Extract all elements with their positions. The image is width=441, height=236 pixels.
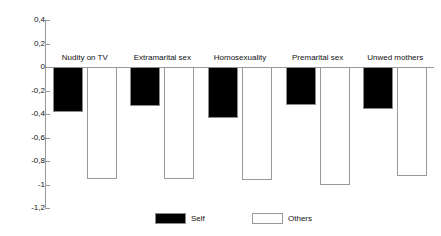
- category-label: Extramarital sex: [124, 53, 202, 62]
- bar-others: [87, 67, 117, 179]
- y-axis-tick-label: -1,2: [7, 204, 45, 212]
- bar-others: [242, 67, 272, 180]
- chart-legend: SelfOthers: [0, 213, 441, 229]
- y-axis-tick-label: -0,4: [7, 110, 45, 118]
- y-axis-tick-label: -0,8: [7, 157, 45, 165]
- legend-swatch-self: [155, 213, 186, 224]
- legend-label: Self: [191, 214, 205, 223]
- y-axis-tick-label: -0,6: [7, 134, 45, 142]
- legend-item: Others: [252, 213, 312, 224]
- bar-group: Unwed mothers: [356, 20, 434, 208]
- bar-self: [363, 67, 393, 109]
- y-axis-tick-label: -0,2: [7, 87, 45, 95]
- y-axis-tick-label: 0: [7, 63, 45, 71]
- category-label: Nudity on TV: [46, 53, 124, 62]
- bar-self: [286, 67, 316, 105]
- bar-self: [130, 67, 160, 106]
- bar-self: [208, 67, 238, 118]
- bar-group: Homosexuality: [201, 20, 279, 208]
- bar-group: Extramarital sex: [124, 20, 202, 208]
- bar-chart: 0,40,20-0,2-0,4-0,6-0,8-1-1,2 Nudity on …: [0, 0, 441, 236]
- legend-label: Others: [288, 214, 312, 223]
- y-axis-tick-label: 0,4: [7, 16, 45, 24]
- bar-group: Premarital sex: [279, 20, 357, 208]
- y-axis-tick: [45, 208, 50, 209]
- legend-item: Self: [155, 213, 205, 224]
- bar-group: Nudity on TV: [46, 20, 124, 208]
- category-label: Unwed mothers: [356, 53, 434, 62]
- y-axis-tick-label: 0,2: [7, 40, 45, 48]
- category-label: Premarital sex: [279, 53, 357, 62]
- category-label: Homosexuality: [201, 53, 279, 62]
- bar-others: [320, 67, 350, 185]
- bar-others: [164, 67, 194, 179]
- bar-others: [397, 67, 427, 176]
- legend-swatch-others: [252, 213, 283, 224]
- y-axis-tick-label: -1: [7, 181, 45, 189]
- plot-area: Nudity on TVExtramarital sexHomosexualit…: [46, 20, 434, 208]
- bar-self: [53, 67, 83, 112]
